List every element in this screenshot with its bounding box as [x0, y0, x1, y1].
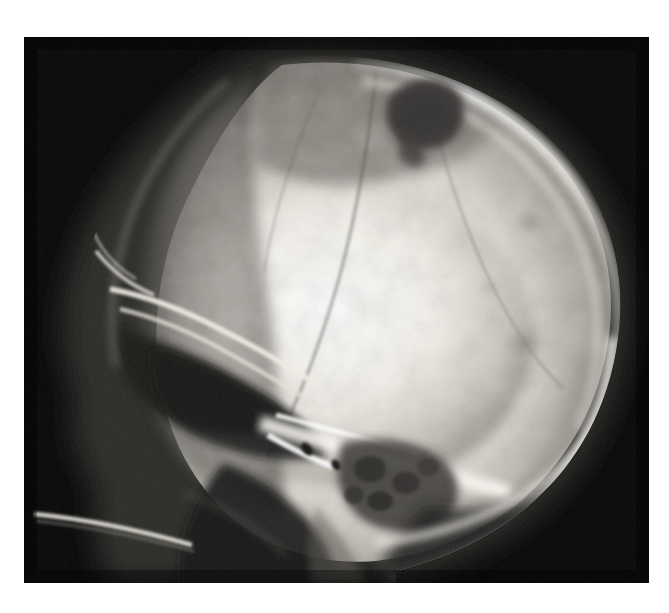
xray-image	[24, 37, 649, 583]
film-grain-speckle	[24, 37, 649, 583]
radiograph-page	[0, 0, 669, 613]
xray-film	[24, 37, 649, 583]
